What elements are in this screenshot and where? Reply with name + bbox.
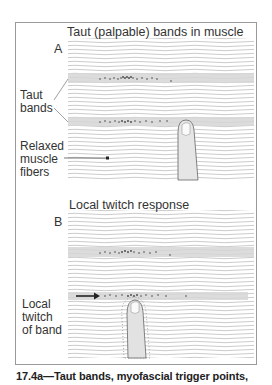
local-twitch-label: Local twitch of band xyxy=(22,298,62,337)
taut-band-1 xyxy=(68,73,254,83)
panel-a-title: Taut (palpable) bands in muscle xyxy=(67,25,244,39)
panel-b-letter: B xyxy=(54,216,62,229)
figure-caption: 17.4a—Taut bands, myofascial trigger poi… xyxy=(16,370,248,382)
taut-band-b1 xyxy=(68,247,254,257)
panel-b-fibers xyxy=(68,210,254,358)
label-line: fibers xyxy=(20,166,64,179)
taut-bands-pointer xyxy=(54,79,68,122)
label-line: bands xyxy=(20,102,53,115)
panel-a-letter: A xyxy=(54,43,62,56)
taut-band-2 xyxy=(68,117,254,126)
relaxed-fibers-label: Relaxed muscle fibers xyxy=(20,140,64,179)
label-line: of band xyxy=(22,324,62,337)
panel-b-title: Local twitch response xyxy=(69,198,189,212)
panel-a-fibers xyxy=(68,38,254,180)
taut-bands-label: Taut bands xyxy=(20,89,53,115)
